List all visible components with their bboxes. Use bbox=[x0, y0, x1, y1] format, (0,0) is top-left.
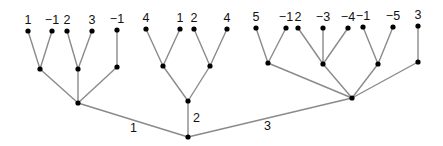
leaf-node bbox=[114, 27, 119, 32]
edges-layer bbox=[28, 26, 418, 137]
tree-edge bbox=[323, 64, 352, 98]
tree-node bbox=[349, 95, 354, 100]
tree-edge bbox=[188, 66, 210, 101]
edge-weight-label: 3 bbox=[264, 119, 271, 133]
leaf-payoff-label: 2 bbox=[295, 10, 302, 24]
leaf-payoff-label: 2 bbox=[64, 13, 71, 27]
tree-edge bbox=[163, 66, 188, 101]
tree-edge bbox=[352, 62, 418, 98]
leaf-node bbox=[415, 23, 420, 28]
leaf-payoff-label: −1 bbox=[279, 10, 293, 24]
leaf-node bbox=[320, 25, 325, 30]
tree-edge bbox=[256, 28, 268, 63]
leaf-node bbox=[25, 28, 30, 33]
leaf-payoff-label: 1 bbox=[25, 13, 32, 27]
leaf-node bbox=[295, 25, 300, 30]
tree-node bbox=[114, 64, 119, 69]
tree-edge bbox=[163, 29, 180, 66]
leaf-payoff-label: −3 bbox=[316, 10, 330, 24]
leaf-node bbox=[283, 25, 288, 30]
tree-edge bbox=[268, 63, 352, 98]
leaf-payoff-label: 3 bbox=[415, 8, 422, 22]
tree-edge bbox=[78, 31, 92, 69]
leaf-node bbox=[89, 28, 94, 33]
tree-edge bbox=[40, 31, 52, 69]
leaf-payoff-label: 4 bbox=[143, 11, 150, 25]
tree-node bbox=[320, 61, 325, 66]
tree-edge bbox=[28, 31, 40, 69]
leaf-payoff-label: −5 bbox=[386, 9, 400, 23]
edge-weight-label: 2 bbox=[193, 111, 200, 125]
leaf-payoff-label: −1 bbox=[45, 13, 59, 27]
leaf-node bbox=[191, 26, 196, 31]
tree-node bbox=[375, 61, 380, 66]
leaf-node bbox=[253, 25, 258, 30]
leaf-node bbox=[345, 25, 350, 30]
nodes-layer bbox=[25, 23, 420, 139]
leaf-payoff-label: −1 bbox=[110, 12, 124, 26]
leaf-node bbox=[143, 26, 148, 31]
leaf-node bbox=[177, 26, 182, 31]
leaf-node bbox=[49, 28, 54, 33]
leaf-node bbox=[224, 26, 229, 31]
tree-edge bbox=[78, 67, 117, 103]
tree-edge bbox=[268, 28, 286, 63]
leaf-payoff-label: 4 bbox=[224, 11, 231, 25]
tree-edge bbox=[40, 69, 78, 103]
leaf-node bbox=[360, 24, 365, 29]
leaf-payoff-label: 5 bbox=[253, 10, 260, 24]
leaf-payoff-label: 1 bbox=[177, 11, 184, 25]
tree-node bbox=[160, 63, 165, 68]
tree-edge bbox=[378, 27, 393, 64]
tree-svg: 123 1−123−141245−12−3−4−1−53 bbox=[0, 0, 443, 146]
tree-edge bbox=[298, 28, 323, 64]
leaf-payoff-label: −1 bbox=[356, 9, 370, 23]
tree-node bbox=[75, 66, 80, 71]
leaf-labels-layer: 1−123−141245−12−3−4−1−53 bbox=[25, 8, 422, 27]
tree-edge bbox=[323, 28, 348, 64]
leaf-payoff-label: 3 bbox=[89, 13, 96, 27]
tree-edge bbox=[67, 31, 78, 69]
leaf-node bbox=[390, 24, 395, 29]
tree-node bbox=[37, 66, 42, 71]
tree-node bbox=[415, 59, 420, 64]
leaf-node bbox=[64, 28, 69, 33]
tree-node bbox=[185, 134, 190, 139]
tree-edge bbox=[352, 64, 378, 98]
tree-edge bbox=[146, 29, 163, 66]
tree-edge bbox=[210, 29, 227, 66]
edge-weight-label: 1 bbox=[130, 121, 137, 135]
tree-node bbox=[185, 98, 190, 103]
tree-diagram: 123 1−123−141245−12−3−4−1−53 bbox=[0, 0, 443, 146]
tree-edge bbox=[363, 27, 378, 64]
tree-node bbox=[207, 63, 212, 68]
tree-node bbox=[265, 60, 270, 65]
leaf-payoff-label: −4 bbox=[341, 10, 355, 24]
tree-node bbox=[75, 100, 80, 105]
tree-edge bbox=[194, 29, 210, 66]
leaf-payoff-label: 2 bbox=[191, 11, 198, 25]
